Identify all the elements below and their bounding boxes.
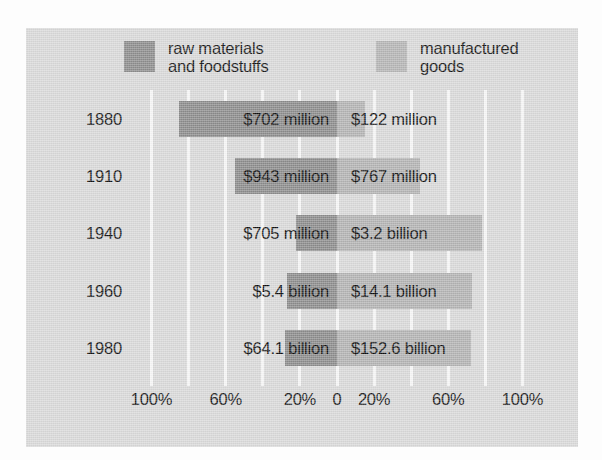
value-label-raw-materials: $943 million (243, 167, 329, 186)
chart-legend: raw materials and foodstuffs manufacture… (26, 28, 578, 90)
axis-tick-label: 100% (131, 390, 172, 409)
chart-figure: raw materials and foodstuffs manufacture… (0, 0, 602, 460)
axis-tick-label: 100% (502, 390, 543, 409)
row-year-label: 1960 (26, 282, 122, 301)
value-label-manufactured-goods: $767 million (351, 167, 437, 186)
axis-tick-label: 20% (358, 390, 390, 409)
legend-swatch-raw-materials (124, 41, 155, 72)
value-label-raw-materials: $5.4 billion (253, 282, 330, 301)
x-axis: 100%60%20%020%60%100% (26, 386, 578, 420)
plot-area: 1880$702 million$122 million1910$943 mil… (26, 90, 578, 386)
row-year-label: 1980 (26, 339, 122, 358)
value-label-raw-materials: $64.1 billion (244, 339, 329, 358)
axis-tick-label: 60% (432, 390, 464, 409)
chart-row: 1940$705 million$3.2 billion (26, 211, 578, 255)
axis-tick-label: 0 (333, 390, 342, 409)
row-year-label: 1910 (26, 167, 122, 186)
legend-label-manufactured-goods: manufactured goods (420, 40, 519, 75)
chart-row: 1880$702 million$122 million (26, 97, 578, 141)
legend-item-manufactured-goods: manufactured goods (376, 40, 519, 75)
legend-label-raw-materials: raw materials and foodstuffs (168, 40, 269, 75)
value-label-manufactured-goods: $152.6 billion (351, 339, 445, 358)
row-year-label: 1880 (26, 110, 122, 129)
legend-item-raw-materials: raw materials and foodstuffs (124, 40, 269, 75)
chart-panel: raw materials and foodstuffs manufacture… (26, 28, 578, 447)
row-year-label: 1940 (26, 224, 122, 243)
value-label-manufactured-goods: $14.1 billion (351, 282, 436, 301)
value-label-raw-materials: $705 million (243, 224, 329, 243)
chart-row: 1910$943 million$767 million (26, 154, 578, 198)
legend-swatch-manufactured-goods (376, 41, 407, 72)
chart-row: 1980$64.1 billion$152.6 billion (26, 326, 578, 370)
axis-tick-label: 60% (209, 390, 241, 409)
value-label-manufactured-goods: $3.2 billion (351, 224, 428, 243)
axis-tick-label: 20% (284, 390, 316, 409)
value-label-raw-materials: $702 million (243, 110, 329, 129)
value-label-manufactured-goods: $122 million (351, 110, 437, 129)
chart-row: 1960$5.4 billion$14.1 billion (26, 269, 578, 313)
